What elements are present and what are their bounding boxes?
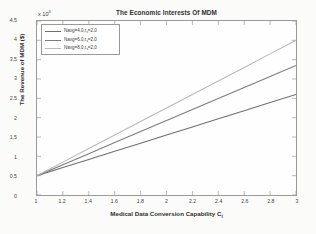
y-tick-label: 3.5: [0, 56, 17, 62]
legend-swatch-line-icon: [45, 48, 61, 49]
x-axis-label: Medical Data Conversion Capability Ci: [36, 210, 297, 219]
x-axis-label-subscript: i: [221, 214, 222, 219]
series-line-2: [37, 65, 296, 175]
chart-figure: x 104 The Economic Interests Of MDM The …: [0, 0, 316, 234]
y-tick-label: 3: [0, 75, 17, 81]
legend-swatch-line-icon: [45, 31, 61, 32]
series-line-3: [37, 40, 296, 175]
chart-title: The Economic Interests Of MDM: [36, 9, 297, 16]
y-tick-label: 1.5: [0, 134, 17, 140]
legend-item-2[interactable]: Navg=6.0,rs=2.0: [45, 36, 116, 45]
chart-legend: Navg=4.0,rs=2.0Navg=6.0,rs=2.0Navg=8.0,r…: [41, 24, 120, 55]
legend-item-1[interactable]: Navg=4.0,rs=2.0: [45, 28, 116, 37]
x-tick-label: 3: [282, 198, 312, 204]
y-tick-label: 0.5: [0, 173, 17, 179]
legend-label: Navg=8.0,rs=2.0: [64, 46, 97, 51]
legend-item-3[interactable]: Navg=8.0,rs=2.0: [45, 45, 116, 54]
series-line-1: [37, 94, 296, 175]
y-tick-label: 2: [0, 115, 17, 121]
y-tick-label: 4.5: [0, 17, 17, 23]
y-axis-label: The Revenue of MDM ($): [18, 5, 25, 135]
legend-label: Navg=4.0,rs=2.0: [64, 29, 97, 34]
y-tick-label: 2.5: [0, 95, 17, 101]
y-tick-label: 0: [0, 193, 17, 199]
y-tick-label: 4: [0, 36, 17, 42]
legend-label: Navg=6.0,rs=2.0: [64, 38, 97, 43]
x-axis-label-text: Medical Data Conversion Capability C: [110, 210, 221, 217]
y-tick-label: 1: [0, 154, 17, 160]
legend-swatch-line-icon: [45, 40, 61, 41]
